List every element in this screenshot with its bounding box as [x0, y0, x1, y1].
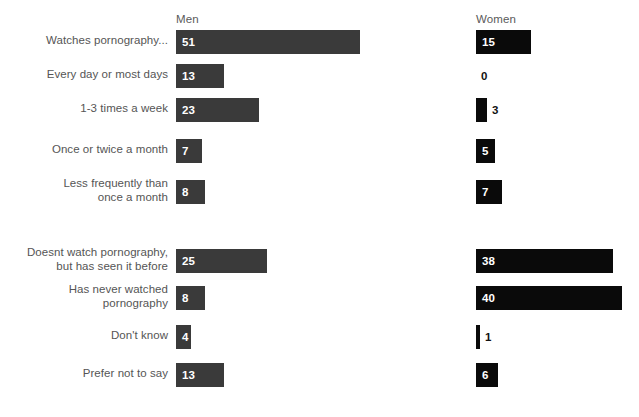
bar-women	[476, 180, 502, 204]
chart-row: Has never watched pornography840	[0, 286, 639, 310]
bar-value-women: 40	[482, 286, 495, 310]
bar-men	[176, 180, 205, 204]
chart-row: Doesnt watch pornography, but has seen i…	[0, 249, 639, 273]
bar-value-men: 13	[182, 363, 195, 387]
bar-value-men: 8	[182, 286, 188, 310]
bar-value-men: 13	[182, 64, 195, 88]
chart-row: Less frequently than once a month87	[0, 180, 639, 204]
bar-women	[476, 286, 622, 310]
bar-value-women: 6	[482, 363, 488, 387]
row-category-label: Less frequently than once a month	[0, 177, 168, 204]
row-category-label: Watches pornography...	[0, 34, 168, 48]
row-category-label: Every day or most days	[0, 68, 168, 82]
chart-row: Watches pornography...5115	[0, 30, 639, 54]
bar-value-women: 38	[482, 249, 495, 273]
bar-men	[176, 139, 202, 163]
row-category-label: Has never watched pornography	[0, 283, 168, 310]
chart-row: Prefer not to say136	[0, 363, 639, 387]
row-category-label: Prefer not to say	[0, 367, 168, 381]
column-header-women: Women	[476, 12, 516, 26]
bar-value-men: 8	[182, 180, 188, 204]
bar-value-women: 1	[485, 325, 491, 349]
row-category-label: 1-3 times a week	[0, 102, 168, 116]
grouped-bar-chart: Men Women Watches pornography...5115Ever…	[0, 0, 639, 417]
bar-men	[176, 286, 205, 310]
bar-value-women: 3	[492, 98, 498, 122]
bar-value-women: 0	[481, 64, 487, 88]
bar-women	[476, 249, 613, 273]
row-category-label: Don't know	[0, 329, 168, 343]
bar-value-men: 4	[182, 325, 188, 349]
bar-value-men: 23	[182, 98, 195, 122]
chart-row: Don't know41	[0, 325, 639, 349]
chart-row: Every day or most days130	[0, 64, 639, 88]
chart-row: Once or twice a month75	[0, 139, 639, 163]
bar-value-women: 7	[482, 180, 488, 204]
row-category-label: Once or twice a month	[0, 143, 168, 157]
column-header-men: Men	[176, 12, 199, 26]
bar-value-men: 25	[182, 249, 195, 273]
bar-value-men: 51	[182, 30, 195, 54]
bar-value-women: 15	[482, 30, 495, 54]
row-category-label: Doesnt watch pornography, but has seen i…	[0, 246, 168, 273]
bar-men	[176, 30, 360, 54]
bar-value-men: 7	[182, 139, 188, 163]
bar-women	[476, 98, 487, 122]
bar-women	[476, 325, 480, 349]
chart-row: 1-3 times a week233	[0, 98, 639, 122]
bar-value-women: 5	[482, 139, 488, 163]
